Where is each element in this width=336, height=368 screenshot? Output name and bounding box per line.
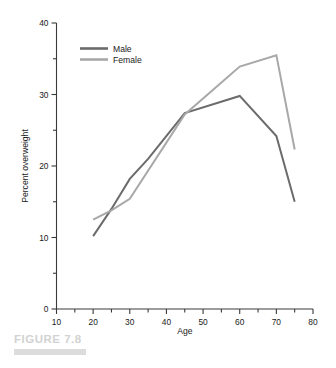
y-tick-label: 10 [39,233,49,243]
chart-axes [57,23,314,309]
y-tick-label: 30 [39,90,49,100]
legend-label-female: Female [113,55,142,65]
x-tick-label: 50 [198,317,208,327]
x-tick-label: 40 [162,317,172,327]
x-tick-label: 10 [52,317,62,327]
figure-caption-rule [14,349,86,355]
x-tick-label: 60 [235,317,245,327]
x-tick-label: 70 [272,317,282,327]
figure-container: 010203040 1020304050607080 Age Percent o… [0,0,336,368]
series-line-female [93,55,295,219]
x-tick-label: 80 [308,317,318,327]
y-axis-tick-labels: 010203040 [39,18,49,314]
figure-caption-text: FIGURE 7.8 [14,332,314,346]
figure-caption-block: FIGURE 7.8 [14,332,314,355]
y-tick-label: 20 [39,161,49,171]
x-tick-label: 20 [88,317,98,327]
y-tick-label: 40 [39,18,49,28]
chart-legend: Male Female [80,44,142,65]
series-line-male [93,96,295,236]
chart-series-lines [93,55,295,236]
line-chart: 010203040 1020304050607080 Age Percent o… [0,0,336,368]
y-axis-title: Percent overweight [20,129,30,203]
x-tick-label: 30 [125,317,135,327]
y-axis-ticks [52,23,57,309]
legend-label-male: Male [113,44,132,54]
x-axis-ticks [57,309,314,314]
y-tick-label: 0 [44,304,49,314]
